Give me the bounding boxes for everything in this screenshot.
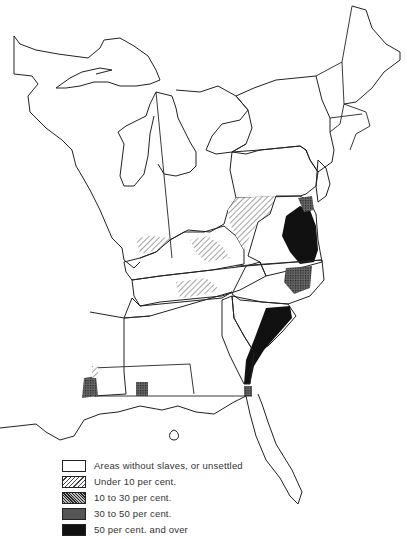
legend-label: 50 per cent. and over bbox=[94, 524, 188, 535]
swatch-solid-icon bbox=[62, 524, 86, 536]
legend-item-10to30: 10 to 30 per cent. bbox=[62, 490, 232, 505]
new-york bbox=[232, 76, 334, 172]
legend-label: 30 to 50 per cent. bbox=[94, 508, 172, 519]
virginia-tidewater bbox=[282, 206, 318, 264]
northeast bbox=[230, 6, 400, 202]
deep-south bbox=[82, 312, 252, 398]
map-legend: Areas without slaves, or unsettled Under… bbox=[62, 458, 232, 538]
legend-item-under10: Under 10 per cent. bbox=[62, 474, 232, 489]
legend-label: Under 10 per cent. bbox=[94, 476, 176, 487]
tennessee-west bbox=[124, 292, 232, 318]
ohio-valley bbox=[124, 196, 276, 318]
new-jersey bbox=[316, 160, 330, 202]
swatch-blank-icon bbox=[62, 460, 86, 472]
natchez-district bbox=[82, 376, 98, 398]
legend-item-over50: 50 per cent. and over bbox=[62, 522, 232, 537]
legend-item-30to50: 30 to 50 per cent. bbox=[62, 506, 232, 521]
legend-label: 10 to 30 per cent. bbox=[94, 492, 172, 503]
legend-label: Areas without slaves, or unsettled bbox=[94, 460, 243, 471]
legend-item-none: Areas without slaves, or unsettled bbox=[62, 458, 232, 473]
swatch-light-hatch-icon bbox=[62, 476, 86, 488]
swatch-crosshatch-icon bbox=[62, 508, 86, 520]
mobile-district bbox=[136, 382, 148, 396]
northwest-territory bbox=[14, 36, 248, 268]
swatch-dense-hatch-icon bbox=[62, 492, 86, 504]
carolinas-georgia bbox=[222, 260, 324, 396]
